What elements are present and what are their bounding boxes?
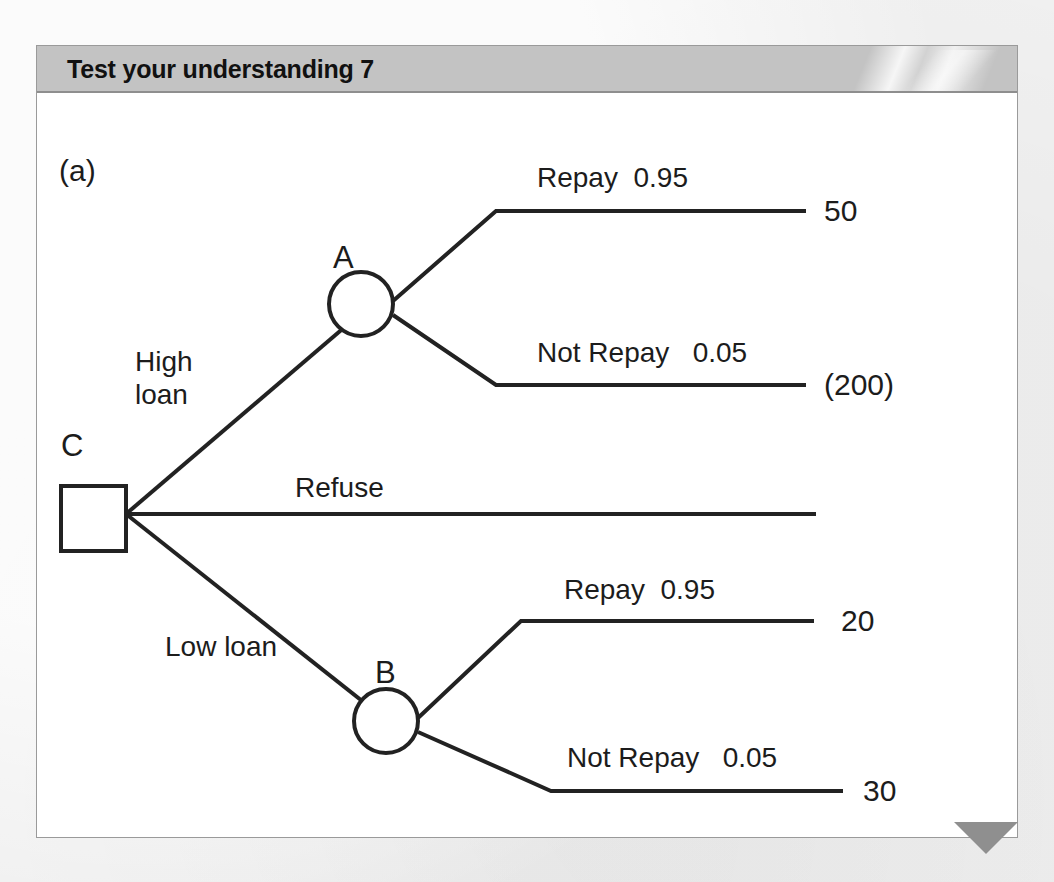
- decision-tree-diagram: (a) C A B High loan Refuse Low loan Repa…: [37, 93, 1017, 837]
- payoff-b-repay: 20: [841, 603, 874, 638]
- branch-label-a-not-repay: Not Repay 0.05: [537, 336, 747, 369]
- payoff-b-not-repay: 30: [863, 773, 896, 808]
- node-c-label: C: [61, 428, 83, 465]
- page-title: Test your understanding 7: [67, 55, 374, 84]
- panel-header: Test your understanding 7: [37, 46, 1017, 93]
- branch-label-low-loan: Low loan: [165, 630, 277, 663]
- branch-label-a-repay: Repay 0.95: [537, 161, 688, 194]
- node-b-chance-circle: [354, 689, 418, 753]
- edge-c-to-b: [126, 514, 395, 727]
- corner-triangle-decoration: [954, 822, 1018, 854]
- node-a-chance-circle: [329, 272, 393, 336]
- header-swoosh-decoration: [748, 46, 1017, 93]
- branch-label-b-not-repay: Not Repay 0.05: [567, 741, 777, 774]
- part-label: (a): [59, 153, 96, 188]
- branch-label-b-repay: Repay 0.95: [564, 573, 715, 606]
- branch-label-high-loan: High loan: [135, 345, 193, 411]
- branch-label-refuse: Refuse: [295, 471, 384, 504]
- edge-b-repay: [418, 621, 814, 718]
- decision-tree-svg: [37, 93, 1019, 837]
- node-b-label: B: [375, 655, 396, 692]
- payoff-a-repay: 50: [824, 193, 857, 228]
- header-swoosh-decoration-secondary: [817, 50, 1007, 93]
- node-c-decision-square: [61, 486, 126, 551]
- edge-a-repay: [393, 211, 806, 301]
- content-panel: Test your understanding 7 (a) C: [36, 45, 1018, 838]
- payoff-a-not-repay: (200): [824, 367, 894, 402]
- node-a-label: A: [333, 240, 354, 277]
